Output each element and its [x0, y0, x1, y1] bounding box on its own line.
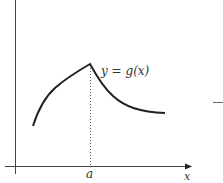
x-axis-arrow-icon [185, 164, 192, 170]
a-label: a [86, 167, 93, 181]
curve-label: y = g(x) [100, 64, 150, 78]
graph-figure: y = g(x) a x [0, 0, 223, 183]
x-axis-label: x [184, 170, 191, 183]
